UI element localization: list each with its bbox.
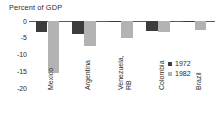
legend-label: 1982 [175, 70, 191, 77]
bar-1982-Argentina [84, 21, 96, 46]
x-axis-category-label: Colombia [158, 60, 166, 90]
bar-1972-Brazil [183, 21, 195, 22]
bar-1972-Mexico [36, 21, 48, 32]
bar-1982-Colombia [158, 21, 170, 32]
y-axis: 0-5-10-15-20 [0, 0, 27, 137]
y-axis-tick-label: 0 [23, 18, 27, 25]
bar-1982-Mexico [48, 21, 60, 73]
legend-item-1982: 1982 [168, 69, 214, 78]
x-axis-category-label: Brazil [195, 72, 203, 90]
x-axis-category-label: Venezuela,RB [117, 55, 132, 90]
y-axis-tick-label: -20 [17, 85, 27, 92]
bar-1972-Colombia [146, 21, 158, 31]
legend-swatch-icon [168, 72, 172, 76]
legend-item-1972: 1972 [168, 59, 214, 68]
x-axis-category-label: Argentina [84, 60, 92, 90]
legend-swatch-icon [168, 62, 172, 66]
x-axis-category-label: Mexico [47, 68, 55, 90]
legend-label: 1972 [175, 60, 191, 67]
bar-1972-VenezuelaRB [109, 21, 121, 22]
bar-1982-Brazil [195, 21, 207, 30]
bar-1982-VenezuelaRB [121, 21, 133, 38]
bar-1972-Argentina [72, 21, 84, 34]
bar-chart: Percent of GDP 0-5-10-15-20 19721982 Mex… [0, 0, 218, 137]
y-axis-tick-label: -10 [17, 51, 27, 58]
y-axis-tick-label: -5 [21, 34, 27, 41]
y-axis-tick-label: -15 [17, 68, 27, 75]
chart-legend: 19721982 [168, 59, 214, 79]
